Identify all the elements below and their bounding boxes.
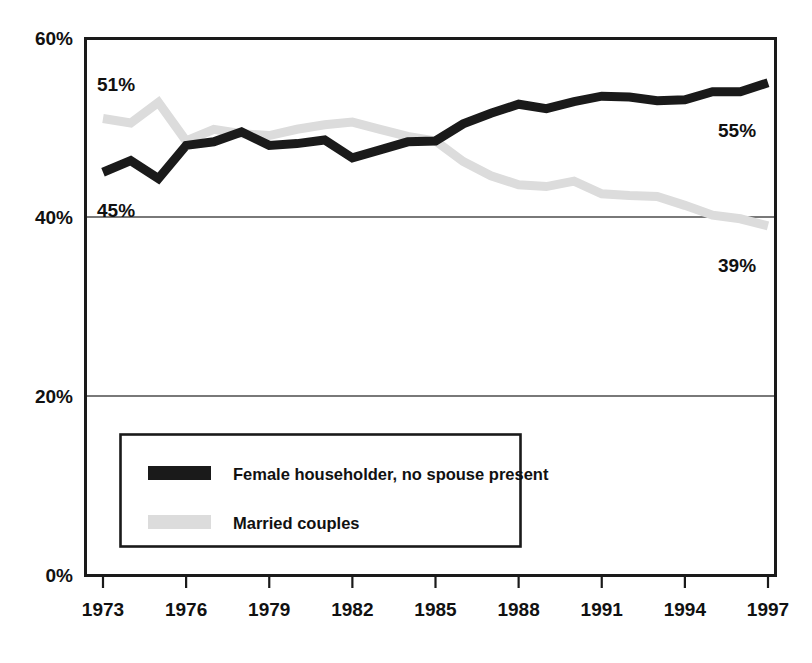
legend-swatch-1: [148, 515, 211, 529]
y-axis-label-40pct: 40%: [35, 207, 73, 228]
x-axis-labels-group: 197319761979198219851988199119941997: [82, 599, 789, 620]
y-axis-label-20pct: 20%: [35, 386, 73, 407]
x-axis-label-1979: 1979: [248, 599, 290, 620]
y-axis-label-60pct: 60%: [35, 28, 73, 49]
line-chart: 0%20%40%60% 1973197619791982198519881991…: [0, 0, 812, 663]
chart-container: 0%20%40%60% 1973197619791982198519881991…: [0, 0, 812, 663]
x-axis-label-1976: 1976: [165, 599, 207, 620]
chart-legend[interactable]: Female householder, no spouse presentMar…: [121, 435, 549, 547]
x-axis-label-1994: 1994: [664, 599, 707, 620]
end-label-female-householder: 55%: [718, 120, 756, 141]
x-axis-label-1988: 1988: [497, 599, 539, 620]
legend-swatch-0: [148, 466, 211, 480]
y-axis-label-0pct: 0%: [46, 565, 74, 586]
x-axis-label-1985: 1985: [414, 599, 457, 620]
legend-label-0: Female householder, no spouse present: [233, 465, 549, 483]
x-axis-label-1973: 1973: [82, 599, 124, 620]
start-label-female-householder: 45%: [97, 200, 135, 221]
end-label-married: 39%: [718, 255, 756, 276]
start-label-married: 51%: [97, 74, 135, 95]
x-axis-label-1982: 1982: [331, 599, 373, 620]
x-axis-label-1991: 1991: [581, 599, 624, 620]
x-axis-label-1997: 1997: [747, 599, 789, 620]
legend-label-1: Married couples: [233, 514, 360, 532]
